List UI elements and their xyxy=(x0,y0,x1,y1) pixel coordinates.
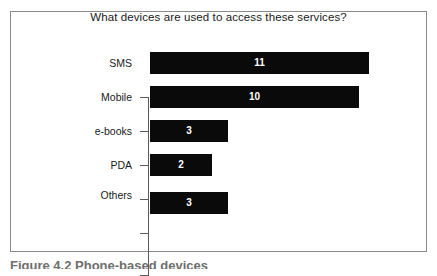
bar-value-e-books: 3 xyxy=(150,120,228,142)
bar-sms[interactable]: 11 xyxy=(150,52,369,74)
category-label-mobile: Mobile xyxy=(101,86,132,108)
category-label-pda: PDA xyxy=(110,154,132,176)
bar-row: Others 3 xyxy=(0,192,417,214)
bar-row: e-books 3 xyxy=(0,120,417,142)
bar-row: PDA 2 xyxy=(0,154,417,176)
bar-value-pda: 2 xyxy=(150,154,212,176)
bar-chart-plot-area: SMS 11 Mobile 10 e-books 3 PDA 2 Others … xyxy=(0,47,417,232)
bar-pda[interactable]: 2 xyxy=(150,154,212,176)
bar-mobile[interactable]: 10 xyxy=(150,86,359,108)
bar-others[interactable]: 3 xyxy=(150,192,228,214)
bar-e-books[interactable]: 3 xyxy=(150,120,228,142)
category-label-e-books: e-books xyxy=(95,120,132,142)
bar-value-sms: 11 xyxy=(150,52,369,74)
bar-value-mobile: 10 xyxy=(150,86,359,108)
bar-value-others: 3 xyxy=(150,192,228,214)
figure-caption: Figure 4.2 Phone-based devices xyxy=(10,258,208,269)
chart-title: What devices are used to access these se… xyxy=(0,11,437,23)
category-label-sms: SMS xyxy=(109,52,132,74)
bar-row: Mobile 10 xyxy=(0,86,417,108)
category-label-others: Others xyxy=(100,184,132,206)
bar-row: SMS 11 xyxy=(0,52,417,74)
axis-tick xyxy=(140,233,149,234)
